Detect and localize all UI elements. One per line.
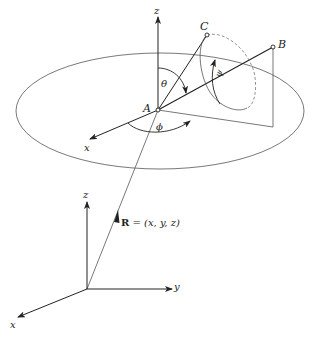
position-vector-arrow — [114, 210, 120, 223]
point-C-label: C — [200, 20, 209, 33]
psi-arc — [212, 60, 220, 104]
upper-x-label: x — [84, 142, 90, 153]
lower-x-axis — [18, 289, 87, 317]
point-A-label: A — [142, 102, 151, 115]
point-C-marker — [205, 33, 209, 37]
lower-x-label: x — [10, 319, 16, 330]
line-AB — [158, 47, 273, 110]
rigid-body-orientation-diagram: z x A B C θ ϕ ψ z y x R = (x, y, z) — [0, 0, 313, 343]
position-vector-line — [87, 110, 158, 289]
psi-label: ψ — [213, 68, 225, 79]
line-AC — [158, 35, 207, 110]
projection-line-AB — [158, 110, 273, 127]
theta-label: θ — [161, 78, 167, 89]
point-A-marker — [156, 108, 160, 112]
upper-z-label: z — [153, 5, 160, 16]
phi-label: ϕ — [156, 121, 163, 132]
point-B-label: B — [277, 38, 286, 51]
point-B-marker — [271, 45, 275, 49]
lower-z-label: z — [82, 189, 89, 200]
lower-y-label: y — [173, 281, 180, 292]
position-vector-label: R = (x, y, z) — [121, 217, 180, 228]
position-vector-components: = (x, y, z) — [129, 217, 180, 228]
